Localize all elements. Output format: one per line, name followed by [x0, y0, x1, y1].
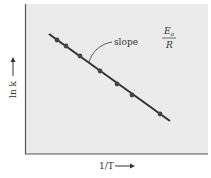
y-axis-label-text: ln k	[8, 80, 18, 98]
y-axis-arrow-icon	[11, 57, 16, 62]
data-point	[158, 112, 163, 117]
data-point	[130, 93, 135, 98]
plot-area	[25, 4, 208, 154]
data-point	[64, 44, 69, 49]
slope-label: slope	[114, 37, 138, 47]
x-axis-arrow-icon	[130, 164, 135, 169]
data-point	[98, 69, 103, 74]
frac-denominator: R	[165, 40, 173, 50]
data-point	[78, 54, 83, 59]
x-axis-label: 1/T	[99, 161, 135, 171]
data-point	[55, 38, 60, 43]
x-axis-label-text: 1/T	[99, 161, 114, 171]
y-axis-label: ln k	[8, 57, 18, 98]
data-point	[115, 82, 120, 87]
frac-subscript: a	[171, 30, 175, 37]
arrhenius-plot: slope Ea R ln k 1/T	[0, 0, 211, 178]
